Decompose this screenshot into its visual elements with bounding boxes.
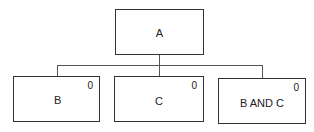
connector-root-stem <box>159 54 160 65</box>
node-b-corner-value: 0 <box>87 80 93 91</box>
connector-to-b-and-c <box>262 65 263 78</box>
connector-to-b <box>57 65 58 76</box>
node-c-label: C <box>115 95 203 107</box>
node-b-and-c: 0 B AND C <box>218 78 306 124</box>
node-a-label: A <box>116 27 203 39</box>
connector-to-c <box>159 65 160 76</box>
node-b-and-c-label: B AND C <box>219 97 305 109</box>
node-a: A <box>115 9 204 55</box>
node-c: 0 C <box>114 76 204 122</box>
node-b-and-c-corner-value: 0 <box>293 82 299 93</box>
connector-horizontal-bar <box>57 65 263 66</box>
node-b: 0 B <box>13 76 100 122</box>
node-b-label: B <box>54 94 99 106</box>
node-c-corner-value: 0 <box>191 80 197 91</box>
